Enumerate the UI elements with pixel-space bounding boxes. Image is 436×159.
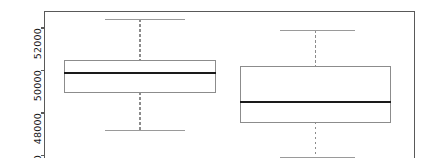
box-plot-2 xyxy=(240,30,391,158)
box-body-2 xyxy=(241,66,391,122)
y-axis-tick-label-2: 48000 xyxy=(32,113,43,144)
box-plot-1 xyxy=(64,19,216,130)
boxplot-canvas xyxy=(0,0,436,158)
plot-frame xyxy=(45,12,415,159)
y-axis-tick-label-1: 50000 xyxy=(32,70,43,101)
box-body-1 xyxy=(65,61,216,93)
boxplot-figure: 52000500004800046000 xyxy=(0,0,436,158)
y-axis-tick-label-3: 46000 xyxy=(32,155,43,158)
y-axis-tick-label-0: 52000 xyxy=(32,28,43,59)
